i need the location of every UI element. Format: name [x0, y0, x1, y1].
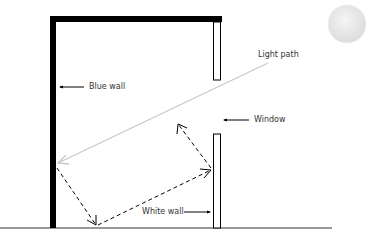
- window-upper-pane: [214, 22, 221, 80]
- blue-wall-label: Blue wall: [89, 82, 125, 92]
- window-pointer-head: [223, 119, 227, 122]
- reflection-1-arrowhead: [87, 215, 96, 225]
- light-path-line: [58, 63, 268, 163]
- reflection-1: [57, 168, 96, 225]
- diagram-canvas: [0, 0, 377, 241]
- reflection-3-arrowhead: [177, 124, 187, 134]
- reflection-3: [178, 124, 211, 168]
- window-lower-pane: [214, 134, 221, 228]
- window-label: Window: [254, 115, 286, 125]
- light-path-arrowhead: [58, 155, 69, 164]
- white-wall-label: White wall: [142, 207, 184, 217]
- white-wall-pointer-head: [207, 211, 211, 214]
- sun-icon: [328, 5, 366, 43]
- blue-wall-pointer-head: [59, 86, 63, 89]
- blue-wall: [50, 16, 56, 228]
- reflection-2-arrowhead: [200, 169, 211, 178]
- top-wall: [50, 16, 222, 22]
- light-path-label: Light path: [258, 50, 299, 60]
